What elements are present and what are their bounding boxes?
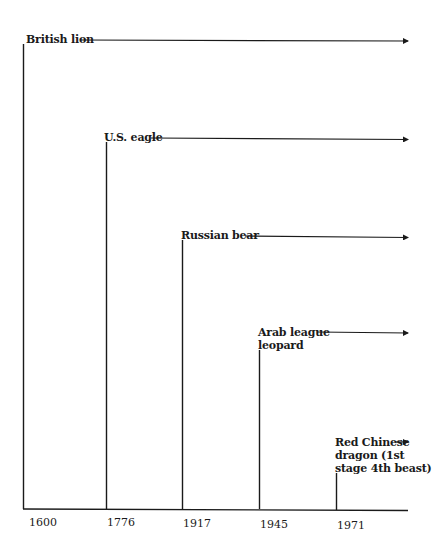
- russian-bear-label: Russian bear: [181, 229, 259, 242]
- tick-label-1917: 1917: [183, 518, 211, 530]
- british-lion-label: British lion: [26, 33, 94, 46]
- us-eagle-label: U.S. eagle: [104, 131, 163, 144]
- red-chinese-dragon-label-line2: dragon (1st: [335, 449, 404, 462]
- arab-league-leopard-arrow: [317, 332, 408, 333]
- tick-label-1600: 1600: [29, 517, 57, 529]
- tick-label-1971: 1971: [337, 520, 365, 532]
- arab-league-leopard-label-line1: Arab league: [258, 326, 330, 339]
- arab-league-leopard-label-line2: leopard: [258, 339, 303, 352]
- red-chinese-dragon-label-line3: stage 4th beast): [335, 462, 432, 475]
- russian-bear-arrow: [245, 236, 408, 238]
- tick-label-1945: 1945: [260, 519, 288, 531]
- british-lion-arrow: [81, 40, 408, 41]
- timeline-axis: [23, 509, 408, 511]
- us-eagle-arrow: [151, 138, 408, 140]
- tick-label-1776: 1776: [107, 517, 135, 529]
- red-chinese-dragon-label-line1: Red Chinese: [335, 436, 410, 449]
